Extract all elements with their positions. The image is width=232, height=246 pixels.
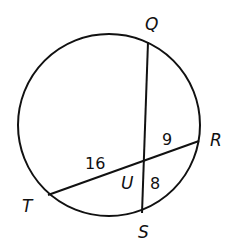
point-label-q: Q (145, 14, 158, 34)
segment-label-tu: 16 (85, 154, 105, 173)
point-label-t: T (22, 196, 34, 216)
segment-label-ur: 9 (162, 130, 172, 149)
circle (18, 34, 200, 216)
chord-qs (142, 42, 148, 213)
diagram: Q R S T U 16 9 8 (0, 0, 232, 246)
point-label-r: R (210, 130, 222, 150)
point-label-s: S (138, 222, 149, 242)
point-label-u: U (121, 173, 134, 193)
segment-label-us: 8 (150, 174, 160, 193)
